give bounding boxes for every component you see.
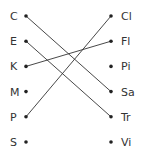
- left-label: C: [10, 10, 18, 23]
- left-label: K: [10, 60, 18, 73]
- right-label: Fl: [121, 35, 130, 48]
- left-label: M: [10, 86, 20, 99]
- right-dot[interactable]: [109, 140, 113, 144]
- right-label: Cl: [121, 10, 132, 23]
- right-label: Sa: [121, 86, 135, 99]
- connection-line: [26, 41, 111, 117]
- right-label: Pi: [121, 60, 130, 73]
- connection-line: [26, 41, 111, 66]
- right-dot[interactable]: [109, 90, 113, 94]
- left-dot[interactable]: [24, 39, 28, 43]
- left-label: P: [10, 111, 17, 124]
- right-label: Tr: [120, 111, 131, 124]
- left-label: E: [10, 35, 17, 48]
- right-column: ClFlPiSaTrVi: [109, 10, 135, 149]
- left-label: S: [10, 136, 17, 149]
- left-dot[interactable]: [24, 115, 28, 119]
- right-dot[interactable]: [109, 39, 113, 43]
- matching-diagram: CEKMPS ClFlPiSaTrVi: [0, 0, 142, 155]
- right-dot[interactable]: [109, 115, 113, 119]
- right-label: Vi: [121, 136, 131, 149]
- left-dot[interactable]: [24, 65, 28, 69]
- left-column: CEKMPS: [10, 10, 28, 149]
- right-dot[interactable]: [109, 65, 113, 69]
- left-dot[interactable]: [24, 90, 28, 94]
- left-dot[interactable]: [24, 140, 28, 144]
- connection-lines: [26, 16, 111, 117]
- right-dot[interactable]: [109, 14, 113, 18]
- connection-line: [26, 16, 111, 117]
- left-dot[interactable]: [24, 14, 28, 18]
